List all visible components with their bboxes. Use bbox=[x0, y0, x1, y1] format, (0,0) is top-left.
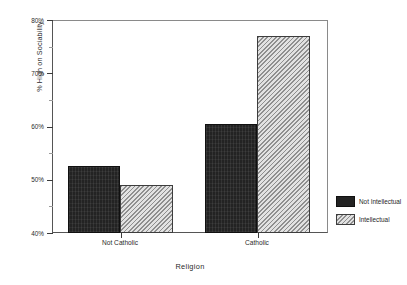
legend-label-intellectual: Intellectual bbox=[359, 216, 390, 223]
x-tick-catholic bbox=[258, 233, 259, 238]
y-tick-minor-45 bbox=[49, 206, 53, 207]
y-tick-major-40 bbox=[47, 233, 53, 234]
legend-label-not-intellectual: Not Intellectual bbox=[359, 198, 401, 205]
y-tick-label-70: 70% bbox=[14, 70, 44, 77]
y-tick-label-80: 80% bbox=[14, 17, 44, 24]
legend-item-intellectual: Intellectual bbox=[336, 210, 401, 228]
y-tick-major-50 bbox=[47, 180, 53, 181]
x-tick-not-catholic bbox=[121, 233, 122, 238]
y-tick-minor-75 bbox=[49, 47, 53, 48]
x-axis-title: Religion bbox=[52, 262, 328, 271]
bar-catholic-intellectual bbox=[257, 36, 310, 233]
bar-chart: % High on Sociability 80% 70% 60% 50% 40… bbox=[0, 0, 407, 285]
legend: Not Intellectual Intellectual bbox=[336, 192, 401, 228]
y-tick-minor-55 bbox=[49, 153, 53, 154]
legend-swatch-icon-not-intellectual bbox=[336, 196, 355, 207]
x-tick-label-not-catholic: Not Catholic bbox=[60, 239, 180, 246]
bar-not-catholic-not-intellectual bbox=[68, 166, 120, 233]
x-tick-label-catholic: Catholic bbox=[197, 239, 317, 246]
legend-item-not-intellectual: Not Intellectual bbox=[336, 192, 401, 210]
y-tick-label-40: 40% bbox=[14, 230, 44, 237]
y-tick-minor-65 bbox=[49, 100, 53, 101]
y-tick-major-80 bbox=[47, 20, 53, 21]
bar-catholic-not-intellectual bbox=[205, 124, 257, 233]
y-tick-label-60: 60% bbox=[14, 123, 44, 130]
bar-not-catholic-intellectual bbox=[120, 185, 173, 233]
y-tick-major-60 bbox=[47, 127, 53, 128]
y-tick-label-50: 50% bbox=[14, 176, 44, 183]
legend-swatch-icon-intellectual bbox=[336, 214, 355, 225]
y-tick-major-70 bbox=[47, 73, 53, 74]
